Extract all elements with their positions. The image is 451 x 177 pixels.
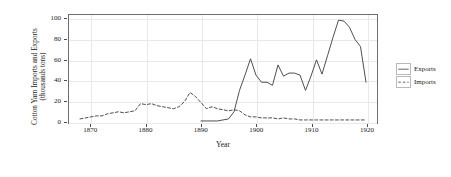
legend-label: Exports — [414, 65, 436, 73]
y-tick-label: 0 — [42, 118, 64, 126]
y-tick-label: 20 — [42, 97, 64, 105]
plot-panel — [68, 14, 378, 124]
x-tick-mark — [312, 124, 313, 127]
y-tick-label: 80 — [42, 35, 64, 43]
legend: ExportsImports — [396, 62, 448, 88]
y-tick-mark — [64, 18, 67, 19]
y-tick-mark — [64, 60, 67, 61]
chart-figure: Cotton Yarn Imports and Exports (thousan… — [0, 0, 451, 177]
legend-label: Imports — [414, 78, 436, 86]
x-tick-label: 1870 — [83, 126, 97, 134]
y-tick-label: 40 — [42, 76, 64, 84]
x-tick-mark — [201, 124, 202, 127]
x-axis-title: Year — [68, 140, 378, 149]
x-tick-label: 1900 — [249, 126, 263, 134]
series-layer — [69, 15, 377, 123]
x-tick-label: 1910 — [305, 126, 319, 134]
series-line-imports — [80, 92, 366, 120]
series-line-exports — [201, 20, 366, 121]
y-tick-label: 100 — [42, 14, 64, 22]
x-axis-tick-labels: 187018801890190019101920 — [68, 126, 378, 138]
legend-item-exports[interactable]: Exports — [396, 62, 448, 75]
gridline-horizontal — [69, 123, 377, 124]
y-tick-mark — [64, 80, 67, 81]
x-tick-mark — [367, 124, 368, 127]
y-axis-title-line-1: Cotton Yarn Imports and Exports — [31, 28, 39, 125]
y-axis-tick-labels: 020406080100 — [42, 14, 64, 124]
y-tick-mark — [64, 39, 67, 40]
x-tick-mark — [256, 124, 257, 127]
x-tick-label: 1880 — [139, 126, 153, 134]
legend-key-exports-icon — [396, 63, 411, 75]
y-tick-mark — [64, 122, 67, 123]
x-tick-label: 1920 — [360, 126, 374, 134]
legend-item-imports[interactable]: Imports — [396, 75, 448, 88]
y-tick-label: 60 — [42, 56, 64, 64]
y-tick-mark — [64, 101, 67, 102]
x-tick-label: 1890 — [194, 126, 208, 134]
legend-key-imports-icon — [396, 76, 411, 88]
x-tick-mark — [146, 124, 147, 127]
x-tick-mark — [90, 124, 91, 127]
